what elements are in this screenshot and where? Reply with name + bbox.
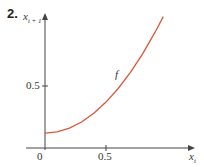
x-axis-label: xt bbox=[189, 150, 196, 165]
y-axis-arrow-icon bbox=[42, 13, 48, 20]
figure: 2. xt + 1 xt 0 0.5 0.5 f bbox=[0, 0, 204, 167]
y-axis-label: xt + 1 bbox=[23, 10, 42, 25]
x-axis-label-sub: t bbox=[194, 157, 196, 165]
x-tick-label: 0.5 bbox=[98, 150, 112, 162]
curve-label: f bbox=[115, 68, 118, 80]
curve-f bbox=[45, 17, 163, 134]
y-tick-label: 0.5 bbox=[26, 79, 40, 91]
origin-label: 0 bbox=[37, 150, 43, 162]
y-axis-label-sub: t + 1 bbox=[28, 17, 42, 25]
figure-number: 2. bbox=[7, 6, 18, 21]
